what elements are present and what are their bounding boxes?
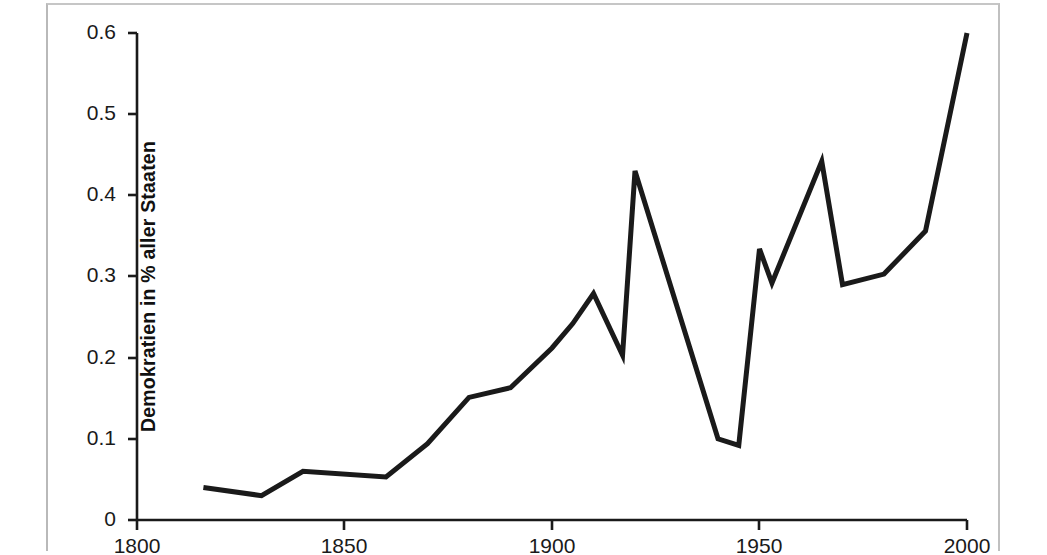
ytick-label-0_3: 0.3 [58,263,116,287]
ytick-label-0: 0 [58,507,116,531]
x-axis-ticks [137,520,967,530]
xtick-label-2000: 2000 [917,534,1017,555]
xtick-label-1800: 1800 [87,534,187,555]
xtick-label-1850: 1850 [294,534,394,555]
xtick-label-1900: 1900 [502,534,602,555]
y-axis-title: Demokratien in % aller Staaten [137,77,160,497]
ytick-label-0_4: 0.4 [58,182,116,206]
ytick-label-0_6: 0.6 [58,20,116,44]
data-series-line [203,33,967,496]
ytick-label-0_1: 0.1 [58,426,116,450]
xtick-label-1950: 1950 [709,534,809,555]
ytick-label-0_5: 0.5 [58,101,116,125]
chart-figure: 0.6 0.5 0.4 0.3 0.2 0.1 0 1800 1850 1900… [0,0,1047,555]
ytick-label-0_2: 0.2 [58,345,116,369]
